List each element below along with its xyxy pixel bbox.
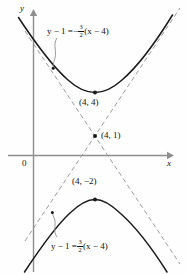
asymptote-negative-slope (25, 31, 180, 264)
upper-eq-sign: − (73, 26, 78, 36)
asymptote-positive-slope (25, 8, 180, 241)
hyperbola-lower-branch (25, 200, 168, 273)
lower-eq-fraction: 32 (77, 239, 82, 253)
lower-eq-denominator: 2 (77, 247, 82, 254)
upper-asymptote-equation: y − 1 =−32(x − 4) (47, 24, 109, 38)
lower-eq-lhs: y − 1 = (51, 241, 77, 251)
upper-equation-leader-line (53, 38, 57, 67)
y-axis-arrow (30, 9, 37, 16)
upper-leader-endpoint-dot (52, 67, 55, 70)
upper-eq-denominator: 2 (78, 32, 83, 39)
center-label: (4, 1) (101, 130, 121, 140)
lower-leader-endpoint-dot (51, 211, 54, 214)
lower-equation-leader-line (53, 214, 57, 237)
x-axis-label: x (167, 158, 171, 168)
lower-vertex-label: (4, −2) (72, 176, 97, 186)
upper-eq-lhs: y − 1 = (47, 26, 73, 36)
graph-canvas (0, 0, 187, 274)
lower-eq-rhs: (x − 4) (83, 241, 108, 251)
y-axis-label: y (20, 3, 24, 13)
origin-label: 0 (22, 158, 27, 168)
upper-vertex-label: (4, 4) (79, 97, 99, 107)
upper-eq-rhs: (x − 4) (84, 26, 109, 36)
upper-eq-fraction: 32 (78, 24, 83, 38)
lower-vertex-point (93, 198, 97, 202)
lower-asymptote-equation: y − 1 =32(x − 4) (51, 239, 108, 253)
center-point (93, 134, 97, 138)
upper-vertex-point (93, 91, 97, 95)
hyperbola-figure: y x 0 (4, 4) (4, 1) (4, −2) y − 1 =−32(x… (0, 0, 187, 274)
